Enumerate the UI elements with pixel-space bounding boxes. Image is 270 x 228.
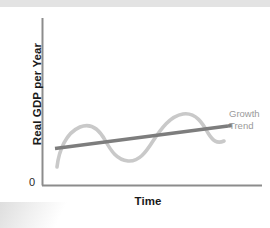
origin-tick-label: 0 (29, 176, 35, 188)
growth-trend-label: Growth Trend (229, 108, 260, 131)
business-cycle-curve (57, 114, 224, 167)
x-axis-label: Time (108, 195, 188, 207)
business-cycle-figure: Real GDP per Year Time 0 Growth Trend (0, 0, 270, 228)
y-axis-label: Real GDP per Year (31, 19, 43, 169)
page-fold-shadow (0, 202, 74, 228)
growth-trend-line (55, 126, 228, 149)
growth-trend-label-line1: Growth (229, 108, 260, 120)
growth-trend-label-line2: Trend (229, 120, 260, 132)
